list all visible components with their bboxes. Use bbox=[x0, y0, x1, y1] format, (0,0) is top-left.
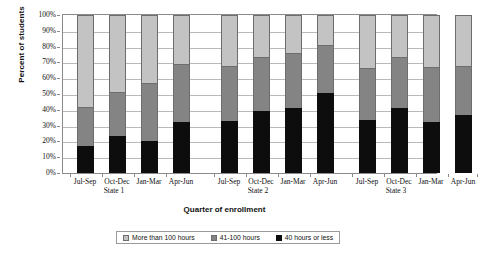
bar-segment-40-hours-or-less[interactable] bbox=[317, 93, 334, 173]
bar-segment-more-than-100-hours[interactable] bbox=[109, 15, 126, 92]
bar-segment-41-100-hours[interactable] bbox=[253, 57, 270, 112]
y-axis-tick-label: 10% bbox=[42, 153, 56, 161]
bar-column[interactable] bbox=[173, 15, 190, 173]
x-axis-group-label: State 2 bbox=[228, 186, 288, 195]
legend-item[interactable]: More than 100 hours bbox=[123, 234, 195, 241]
bar-segment-41-100-hours[interactable] bbox=[317, 45, 334, 93]
y-axis-tick-label: 70% bbox=[42, 59, 56, 67]
bar-segment-41-100-hours[interactable] bbox=[423, 67, 440, 122]
bar-segment-40-hours-or-less[interactable] bbox=[423, 122, 440, 173]
y-axis-tick-label: 50% bbox=[42, 90, 56, 98]
legend-color-swatch-icon bbox=[276, 235, 282, 241]
legend-color-swatch-icon bbox=[123, 235, 129, 241]
x-axis-title: Quarter of enrollment bbox=[0, 205, 449, 214]
bar-segment-more-than-100-hours[interactable] bbox=[77, 15, 94, 107]
bar-segment-more-than-100-hours[interactable] bbox=[173, 15, 190, 64]
y-axis-tick-mark bbox=[57, 31, 60, 32]
bar-column[interactable] bbox=[285, 15, 302, 173]
y-axis-tick-label: 40% bbox=[42, 106, 56, 114]
bar-segment-more-than-100-hours[interactable] bbox=[253, 15, 270, 57]
bar-segment-more-than-100-hours[interactable] bbox=[359, 15, 376, 68]
y-axis-tick-mark bbox=[57, 110, 60, 111]
bar-segment-41-100-hours[interactable] bbox=[109, 92, 126, 135]
legend-item[interactable]: 41-100 hours bbox=[211, 234, 260, 241]
x-axis-category-label: Apr-Jun bbox=[306, 177, 344, 186]
bar-segment-40-hours-or-less[interactable] bbox=[109, 136, 126, 173]
y-axis-tick-label: 80% bbox=[42, 43, 56, 51]
bar-column[interactable] bbox=[455, 15, 472, 173]
bar-segment-41-100-hours[interactable] bbox=[285, 53, 302, 108]
legend-color-swatch-icon bbox=[211, 235, 217, 241]
bars-container bbox=[63, 15, 436, 173]
y-axis-tick-mark bbox=[57, 94, 60, 95]
bar-segment-40-hours-or-less[interactable] bbox=[221, 121, 238, 173]
bar-column[interactable] bbox=[109, 15, 126, 173]
x-axis-group-label: State 1 bbox=[84, 186, 144, 195]
bar-column[interactable] bbox=[391, 15, 408, 173]
bar-column[interactable] bbox=[221, 15, 238, 173]
y-axis-tick-label: 100% bbox=[39, 11, 57, 19]
bar-segment-41-100-hours[interactable] bbox=[141, 83, 158, 141]
y-axis-tick-mark bbox=[57, 173, 60, 174]
x-axis-group-label: State 3 bbox=[366, 186, 426, 195]
bar-column[interactable] bbox=[423, 15, 440, 173]
bar-segment-40-hours-or-less[interactable] bbox=[173, 122, 190, 173]
y-axis-tick-label: 30% bbox=[42, 122, 56, 130]
bar-segment-41-100-hours[interactable] bbox=[455, 66, 472, 116]
bar-column[interactable] bbox=[253, 15, 270, 173]
bar-segment-41-100-hours[interactable] bbox=[221, 66, 238, 121]
bar-segment-more-than-100-hours[interactable] bbox=[423, 15, 440, 67]
bar-column[interactable] bbox=[141, 15, 158, 173]
y-axis-tick-mark bbox=[57, 62, 60, 63]
bar-segment-more-than-100-hours[interactable] bbox=[221, 15, 238, 66]
bar-segment-41-100-hours[interactable] bbox=[391, 57, 408, 108]
bar-segment-41-100-hours[interactable] bbox=[359, 68, 376, 120]
bar-segment-40-hours-or-less[interactable] bbox=[77, 146, 94, 173]
bar-segment-more-than-100-hours[interactable] bbox=[141, 15, 158, 83]
bar-column[interactable] bbox=[317, 15, 334, 173]
bar-segment-more-than-100-hours[interactable] bbox=[455, 15, 472, 66]
y-axis-tick-mark bbox=[57, 78, 60, 79]
bar-segment-40-hours-or-less[interactable] bbox=[455, 115, 472, 173]
bar-segment-41-100-hours[interactable] bbox=[77, 107, 94, 146]
bar-segment-more-than-100-hours[interactable] bbox=[285, 15, 302, 53]
y-axis-tick-label: 60% bbox=[42, 74, 56, 82]
bar-segment-40-hours-or-less[interactable] bbox=[253, 111, 270, 173]
y-axis-tick-label: 90% bbox=[42, 27, 56, 35]
x-axis-category-labels: Jul-SepOct-DecJan-MarApr-JunJul-SepOct-D… bbox=[62, 177, 437, 201]
chart-legend: More than 100 hours41-100 hours40 hours … bbox=[116, 231, 340, 244]
bar-segment-40-hours-or-less[interactable] bbox=[285, 108, 302, 173]
y-axis-tick-label: 0% bbox=[46, 169, 56, 177]
y-axis-title: Percent of students bbox=[17, 0, 26, 110]
x-axis-category-label: Apr-Jun bbox=[444, 177, 482, 186]
legend-item[interactable]: 40 hours or less bbox=[276, 234, 333, 241]
bar-segment-more-than-100-hours[interactable] bbox=[317, 15, 334, 45]
bar-segment-40-hours-or-less[interactable] bbox=[359, 120, 376, 173]
x-axis-category-label: Apr-Jun bbox=[162, 177, 200, 186]
y-axis-tick-mark bbox=[57, 157, 60, 158]
bar-segment-40-hours-or-less[interactable] bbox=[141, 141, 158, 173]
y-axis-tick-mark bbox=[57, 15, 60, 16]
y-axis-tick-mark bbox=[57, 47, 60, 48]
legend-label: 41-100 hours bbox=[220, 234, 260, 241]
bar-segment-41-100-hours[interactable] bbox=[173, 64, 190, 122]
bar-segment-more-than-100-hours[interactable] bbox=[391, 15, 408, 57]
y-axis-tick-labels: 0%10%20%30%40%50%60%70%80%90%100% bbox=[26, 14, 60, 174]
bar-column[interactable] bbox=[77, 15, 94, 173]
plot-area bbox=[62, 14, 437, 174]
y-axis-tick-label: 20% bbox=[42, 138, 56, 146]
legend-label: 40 hours or less bbox=[285, 234, 333, 241]
legend-label: More than 100 hours bbox=[132, 234, 195, 241]
y-axis-tick-mark bbox=[57, 126, 60, 127]
bar-segment-40-hours-or-less[interactable] bbox=[391, 108, 408, 173]
y-axis-tick-mark bbox=[57, 141, 60, 142]
bar-column[interactable] bbox=[359, 15, 376, 173]
